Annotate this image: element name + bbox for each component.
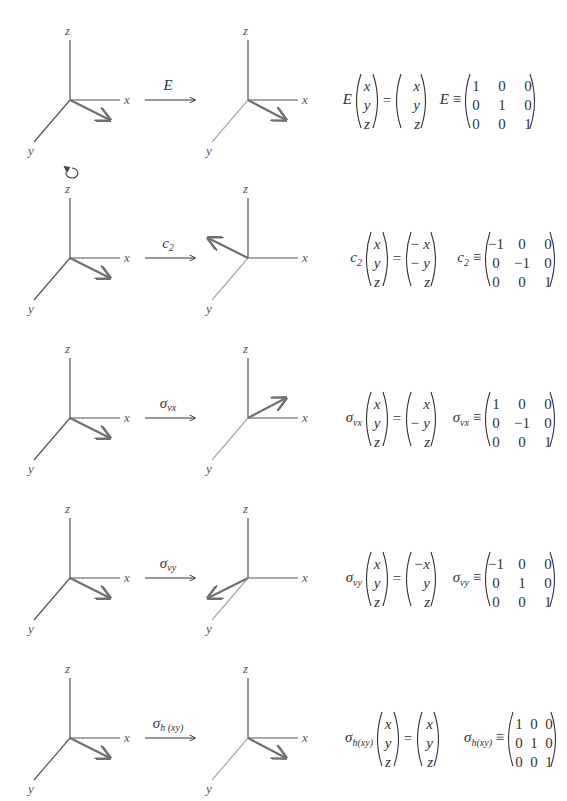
svg-text:z: z <box>423 434 430 450</box>
svg-text:z: z <box>373 594 380 610</box>
vector-equation: σvyxyz=−xyz <box>346 552 436 610</box>
z-axis-label: z <box>242 181 248 196</box>
equiv-sign: ≡ <box>473 249 481 265</box>
operation-label: σvx <box>160 395 177 413</box>
svg-text:−1: −1 <box>514 415 530 431</box>
svg-text:0: 0 <box>524 97 532 113</box>
right-paren <box>431 232 436 286</box>
z-axis-label: z <box>242 23 248 38</box>
svg-text:y: y <box>372 255 381 271</box>
svg-text:0: 0 <box>515 735 523 751</box>
x-axis-label: x <box>301 92 308 107</box>
original-axes: zy <box>26 181 120 316</box>
x-axis-label: x <box>123 250 130 265</box>
svg-text:y: y <box>383 735 392 751</box>
svg-text:z: z <box>373 274 380 290</box>
matrix-symbol: σvx <box>453 409 470 428</box>
left-paren <box>397 74 402 128</box>
svg-text:0: 0 <box>524 78 532 94</box>
z-axis-label: z <box>64 661 70 676</box>
x-axis-label: x <box>123 410 130 425</box>
svg-text:0: 0 <box>518 556 526 572</box>
vector-arrow <box>70 100 110 120</box>
original-axes: zy <box>26 341 120 476</box>
svg-text:x: x <box>422 396 430 412</box>
vector-equation: Exyz=xyz <box>342 74 426 132</box>
z-axis-label: z <box>242 661 248 676</box>
transformation-matrix: E≡100010001 <box>439 74 535 132</box>
svg-text:0: 0 <box>530 754 538 770</box>
svg-text:1: 1 <box>472 78 480 94</box>
equals-sign: = <box>393 250 401 266</box>
svg-text:0: 0 <box>492 575 500 591</box>
transformation-matrix: σvx≡1000−10001 <box>453 392 555 450</box>
right-paren <box>373 74 378 128</box>
right-paren <box>431 392 436 446</box>
y-axis <box>212 578 248 620</box>
svg-text:0: 0 <box>518 396 526 412</box>
equals-sign: = <box>393 570 401 586</box>
right-paren <box>383 232 388 286</box>
z-axis-label: z <box>64 341 70 356</box>
left-paren <box>509 712 514 766</box>
transformed-vector-arrow <box>208 578 248 598</box>
vector-arrow <box>70 738 110 758</box>
transformed-vector-arrow <box>248 398 286 418</box>
svg-text:x: x <box>373 556 381 572</box>
left-paren <box>367 232 372 286</box>
transformed-axes: zy <box>204 181 298 316</box>
x-axis-label: x <box>301 730 308 745</box>
transformed-axes: zy <box>204 501 298 636</box>
operator-symbol: c2 <box>350 249 362 268</box>
svg-text:0: 0 <box>545 716 553 732</box>
svg-text:1: 1 <box>498 97 506 113</box>
y-axis <box>212 258 248 300</box>
y-axis-label: y <box>204 781 212 796</box>
svg-text:1: 1 <box>515 716 523 732</box>
svg-text:1: 1 <box>492 396 500 412</box>
equiv-sign: ≡ <box>453 91 461 107</box>
vector-equation: σvxxyz=x− yz <box>346 392 436 450</box>
right-paren <box>394 712 399 766</box>
y-axis <box>34 578 70 620</box>
svg-text:z: z <box>363 116 370 132</box>
svg-text:0: 0 <box>498 78 506 94</box>
svg-text:x: x <box>384 716 392 732</box>
transformed-axes: zy <box>204 23 298 158</box>
operation-row: zyxc2zyxc2xyz=− x− yzc2≡−1000−10001 <box>26 166 555 316</box>
matrix-symbol: c2 <box>457 249 469 268</box>
svg-text:0: 0 <box>492 255 500 271</box>
right-paren <box>383 392 388 446</box>
equiv-sign: ≡ <box>496 729 504 745</box>
svg-text:0: 0 <box>492 434 500 450</box>
y-axis-label: y <box>26 143 34 158</box>
svg-text:− y: − y <box>409 255 430 271</box>
svg-text:0: 0 <box>545 735 553 751</box>
svg-text:0: 0 <box>492 274 500 290</box>
svg-text:0: 0 <box>518 236 526 252</box>
z-axis-label: z <box>242 501 248 516</box>
svg-text:1: 1 <box>544 274 552 290</box>
y-axis-label: y <box>204 301 212 316</box>
equals-sign: = <box>393 410 401 426</box>
svg-text:z: z <box>423 594 430 610</box>
svg-text:x: x <box>425 716 433 732</box>
left-paren <box>486 392 491 446</box>
original-axes: zy <box>26 501 120 636</box>
transformed-vector-arrow <box>248 100 286 120</box>
svg-text:y: y <box>411 97 420 113</box>
y-axis-label: y <box>204 461 212 476</box>
vector-arrow <box>70 578 110 598</box>
svg-text:0: 0 <box>544 556 552 572</box>
equiv-sign: ≡ <box>473 569 481 585</box>
vector-equation: σh(xy)xyz=xyz <box>345 712 438 770</box>
y-axis-label: y <box>26 461 34 476</box>
y-axis <box>34 100 70 142</box>
svg-text:−1: −1 <box>514 255 530 271</box>
transformation-matrix: c2≡−1000−10001 <box>457 232 554 290</box>
svg-text:−1: −1 <box>488 236 504 252</box>
y-axis <box>212 100 248 142</box>
transformed-axes: zy <box>204 341 298 476</box>
y-axis-label: y <box>204 143 212 158</box>
vector-equation: c2xyz=− x− yz <box>350 232 435 290</box>
